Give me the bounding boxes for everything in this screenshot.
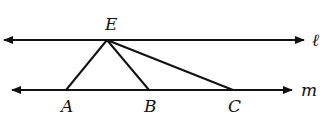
point-label-a: A xyxy=(59,96,73,116)
point-label-e: E xyxy=(104,14,118,34)
segment-ec xyxy=(107,40,233,90)
line-label-l: ℓ xyxy=(312,30,319,50)
point-label-b: B xyxy=(143,96,157,116)
segment-ea xyxy=(66,40,107,90)
point-label-c: C xyxy=(228,96,241,116)
line-label-m: m xyxy=(301,80,317,100)
geometry-diagram: E A B C ℓ m xyxy=(0,0,332,127)
